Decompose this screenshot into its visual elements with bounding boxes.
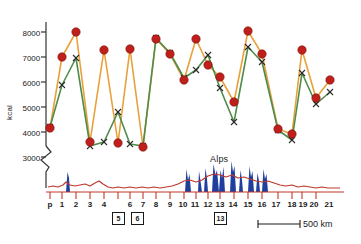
x-tick-label-13: 13 <box>213 200 227 209</box>
x-tick-label-15: 15 <box>241 200 255 209</box>
x-tick-label-17: 17 <box>269 200 283 209</box>
x-tick-label-21: 21 <box>322 200 336 209</box>
x-axis-ticks <box>50 192 316 199</box>
y-axis-ticks <box>41 32 46 157</box>
x-tick-label-8: 8 <box>149 200 163 209</box>
rest-day-box-6: 6 <box>131 212 144 225</box>
x-tick-label-4: 4 <box>97 200 111 209</box>
chart-figure: kcal 8000 7000 6000 5000 4000 3000 Alps … <box>0 0 361 244</box>
x-tick-label-20: 20 <box>307 200 321 209</box>
x-tick-label-14: 14 <box>226 200 240 209</box>
x-tick-label-7: 7 <box>136 200 150 209</box>
series1-line <box>50 31 330 147</box>
axis-break-symbol <box>41 146 51 188</box>
x-tick-label-11: 11 <box>188 200 202 209</box>
rest-day-box-5: 5 <box>112 212 125 225</box>
x-tick-label-3: 3 <box>83 200 97 209</box>
rest-day-box-13: 13 <box>214 212 227 225</box>
scale-bar <box>258 220 300 228</box>
elevation-profile-panel <box>46 161 344 228</box>
x-tick-label-9: 9 <box>163 200 177 209</box>
x-tick-label-6: 6 <box>123 200 137 209</box>
x-tick-label-16: 16 <box>255 200 269 209</box>
elevation-line <box>48 174 340 188</box>
x-tick-label-2: 2 <box>69 200 83 209</box>
x-tick-label-1: 1 <box>55 200 69 209</box>
